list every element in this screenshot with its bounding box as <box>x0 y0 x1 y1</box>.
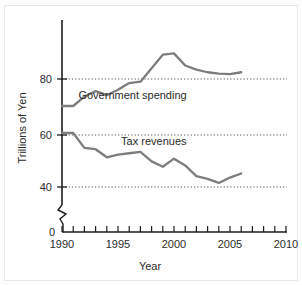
chart-figure: 80 60 40 0 1990 1995 2000 2005 2010 Year… <box>0 0 302 285</box>
y-tick-label-80: 80 <box>40 73 52 85</box>
x-tick-label-1990: 1990 <box>50 238 74 250</box>
y-tick-label-40: 40 <box>40 181 52 193</box>
x-tick-label-1995: 1995 <box>106 238 130 250</box>
y-axis-title: Trillions of Yen <box>16 92 28 163</box>
x-tick-label-2000: 2000 <box>162 238 186 250</box>
line-chart: 80 60 40 0 1990 1995 2000 2005 2010 Year… <box>0 0 302 285</box>
x-tick-label-2005: 2005 <box>218 238 242 250</box>
x-tick-marks <box>62 226 286 232</box>
y-tick-label-60: 60 <box>40 129 52 141</box>
series-annotation-tax-revenues: Tax revenues <box>121 135 187 147</box>
y-tick-label-0: 0 <box>49 226 55 238</box>
x-axis-title: Year <box>139 260 162 272</box>
series-annotation-government-spending: Government spending <box>78 89 186 101</box>
x-tick-label-2010: 2010 <box>274 238 298 250</box>
